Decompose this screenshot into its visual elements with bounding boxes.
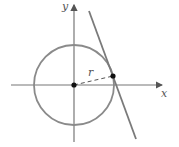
x-axis-label: x: [161, 87, 168, 100]
tangent-line-diagram: y x r: [0, 0, 179, 147]
radius-label: r: [88, 66, 94, 79]
y-axis-label: y: [61, 0, 69, 13]
radius-dashed-line: [74, 76, 113, 85]
origin-point: [71, 82, 76, 87]
tangent-point: [110, 73, 115, 78]
